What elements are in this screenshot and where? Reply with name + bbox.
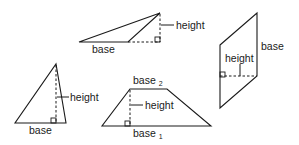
height-label: height (70, 91, 99, 103)
right-angle-icon (51, 118, 56, 123)
obtuse-triangle-outline (79, 13, 160, 42)
base-2-subscript: 2 (159, 80, 163, 87)
right-angle-icon (155, 37, 160, 42)
height-label: height (225, 52, 254, 64)
base-2-label: base2 (133, 74, 163, 87)
base-1-subscript: 1 (159, 133, 163, 140)
base-label: base (92, 43, 115, 55)
acute-triangle-outline (15, 64, 66, 123)
acute-triangle: height base (15, 64, 99, 136)
obtuse-triangle: height base (79, 13, 205, 55)
base-label: base (29, 124, 52, 136)
geometry-diagram: height base height base height base heig… (0, 0, 299, 145)
height-label: height (145, 99, 174, 111)
base-label: base (261, 40, 284, 52)
base-2-text: base (133, 74, 156, 86)
parallelogram: height base (220, 13, 284, 108)
base-1-label: base1 (133, 127, 163, 140)
base-1-text: base (133, 127, 156, 139)
height-label: height (176, 19, 205, 31)
trapezoid: height base2 base1 (102, 74, 211, 140)
right-angle-icon (125, 121, 130, 126)
